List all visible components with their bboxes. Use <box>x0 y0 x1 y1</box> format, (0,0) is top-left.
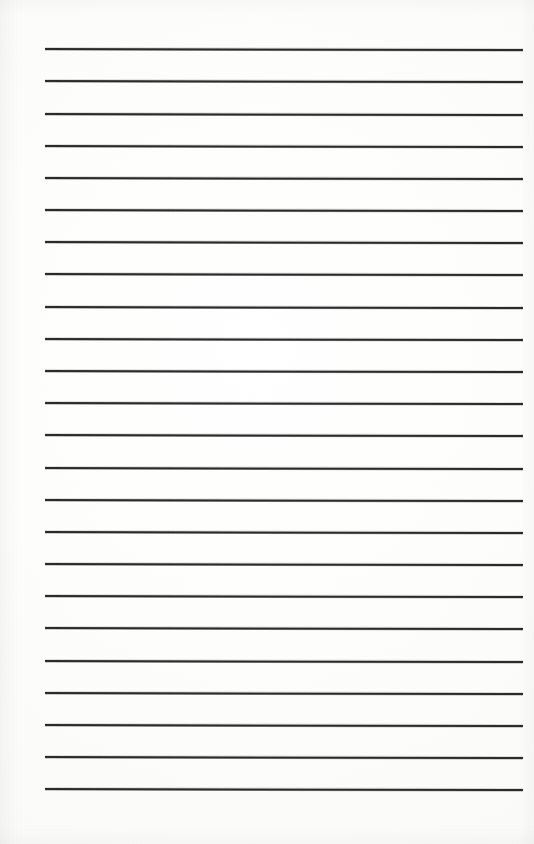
lined-paper-page <box>0 0 534 844</box>
writing-area[interactable] <box>45 49 523 789</box>
